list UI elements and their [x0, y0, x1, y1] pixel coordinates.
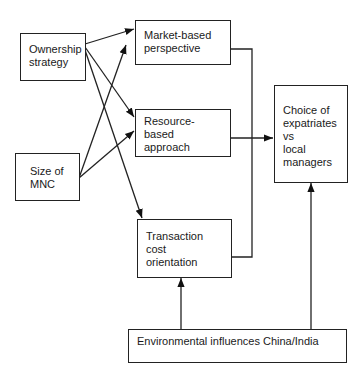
node-ownership-strategy: Ownership strategy — [20, 33, 86, 81]
node-resource-based-approach: Resource- based approach — [135, 109, 231, 157]
node-transaction-cost-orientation: Transaction cost orientation — [137, 219, 232, 278]
node-label: Transaction cost orientation — [146, 230, 231, 269]
node-label: Choice of expatriates vs local managers — [283, 104, 347, 169]
node-size-of-mnc: Size of MNC — [15, 153, 80, 201]
node-label: Size of MNC — [30, 165, 79, 191]
node-label: Ownership strategy — [29, 43, 85, 69]
arrow-ownership-to-resource — [85, 47, 134, 117]
node-label: Resource- based approach — [144, 115, 230, 154]
node-choice-expatriates-vs-local: Choice of expatriates vs local managers — [274, 85, 348, 183]
node-label: Market-based perspective — [144, 29, 230, 55]
node-environmental-influences: Environmental influences China/India — [128, 329, 347, 363]
node-market-based-perspective: Market-based perspective — [135, 20, 231, 65]
arrow-ownership-to-market — [85, 29, 134, 44]
line-market-to-bus — [230, 49, 252, 257]
arrow-ownership-to-transaction — [85, 50, 142, 218]
node-label: Environmental influences China/India — [137, 335, 346, 348]
